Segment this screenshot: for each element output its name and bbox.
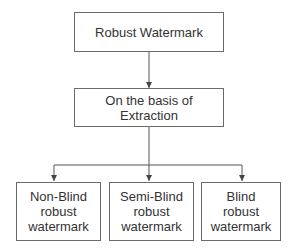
- node-blind-robust-watermark: Blind robust watermark: [201, 182, 281, 241]
- node-label-line3: watermark: [121, 219, 182, 234]
- node-label-line1: On the basis of: [105, 93, 192, 108]
- node-label-line3: watermark: [28, 219, 89, 234]
- node-label-line2: robust: [223, 204, 259, 219]
- arrowhead-icon: [239, 175, 245, 181]
- arrowhead-icon: [51, 175, 57, 181]
- node-label-line1: Blind: [227, 189, 256, 204]
- node-nonblind-robust-watermark: Non-Blind robust watermark: [16, 182, 101, 241]
- node-label-line2: Extraction: [120, 108, 178, 123]
- node-label-line3: watermark: [211, 219, 272, 234]
- node-label: Robust Watermark: [95, 25, 203, 40]
- node-label-line1: Semi-Blind: [120, 189, 183, 204]
- node-extraction-basis: On the basis of Extraction: [74, 88, 224, 127]
- node-robust-watermark: Robust Watermark: [74, 12, 224, 52]
- node-semiblind-robust-watermark: Semi-Blind robust watermark: [109, 182, 194, 241]
- arrowhead-icon: [146, 175, 152, 181]
- node-label-line2: robust: [40, 204, 76, 219]
- node-label-line1: Non-Blind: [30, 189, 87, 204]
- node-label-line2: robust: [133, 204, 169, 219]
